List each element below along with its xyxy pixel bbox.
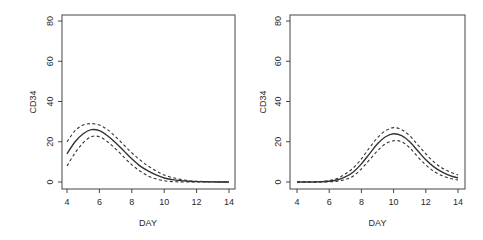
series-lower — [67, 136, 229, 182]
x-tick-label: 12 — [421, 197, 431, 207]
series-estimate — [67, 129, 229, 182]
y-tick-label: 20 — [45, 137, 55, 147]
series-upper — [297, 128, 458, 182]
x-axis-label: DAY — [139, 218, 157, 228]
y-axis-label: CD34 — [28, 90, 38, 113]
chart-canvas: 468101214020406080DAYCD34 46810121402040… — [0, 0, 483, 240]
left-panel: 468101214020406080DAYCD34 — [28, 15, 235, 228]
y-tick-label: 0 — [273, 179, 283, 184]
y-tick-label: 80 — [45, 16, 55, 26]
series-estimate — [297, 134, 458, 182]
x-tick-label: 10 — [389, 197, 399, 207]
right-panel: 468101214020406080DAYCD34 — [258, 15, 465, 228]
x-tick-label: 4 — [64, 197, 69, 207]
x-tick-label: 8 — [359, 197, 364, 207]
x-tick-label: 8 — [129, 197, 134, 207]
y-tick-label: 20 — [273, 137, 283, 147]
series-upper — [67, 124, 229, 182]
x-tick-label: 4 — [294, 197, 299, 207]
x-tick-label: 10 — [159, 197, 169, 207]
x-tick-label: 14 — [224, 197, 234, 207]
x-tick-label: 12 — [192, 197, 202, 207]
y-tick-label: 40 — [273, 96, 283, 106]
y-tick-label: 80 — [273, 16, 283, 26]
y-axis-label: CD34 — [258, 90, 268, 113]
x-tick-label: 6 — [97, 197, 102, 207]
plot-frame — [290, 15, 465, 189]
y-tick-label: 0 — [45, 179, 55, 184]
y-tick-label: 40 — [45, 96, 55, 106]
x-axis-label: DAY — [369, 218, 387, 228]
plot-frame — [62, 15, 235, 189]
x-tick-label: 6 — [327, 197, 332, 207]
y-tick-label: 60 — [45, 56, 55, 66]
y-tick-label: 60 — [273, 56, 283, 66]
x-tick-label: 14 — [453, 197, 463, 207]
